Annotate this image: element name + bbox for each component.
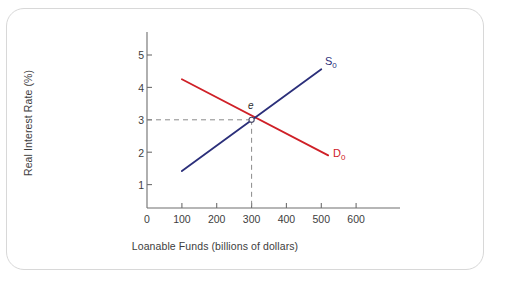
y-tick-label-4: 4 [124,82,144,94]
supply-curve-label-subscript: 0 [332,61,336,70]
demand-curve-label: D0 [333,147,345,162]
x-tick-label-600: 600 [341,213,371,225]
equilibrium-label: e [248,100,254,111]
y-tick-label-3: 3 [124,114,144,126]
x-axis-title: Loanable Funds (billions of dollars) [0,240,430,252]
x-tick-label-400: 400 [271,213,301,225]
x-tick-label-500: 500 [306,213,336,225]
x-axis-ticks [182,203,356,208]
demand-curve-label-text: D [333,147,341,159]
chart-area: Loanable Funds (billions of dollars) Rea… [0,0,507,286]
x-tick-label-200: 200 [202,213,232,225]
supply-curve-label: S0 [325,55,337,70]
x-tick-label-300: 300 [237,213,267,225]
y-tick-label-5: 5 [124,49,144,61]
y-tick-label-2: 2 [124,147,144,159]
demand-curve-label-subscript: 0 [341,153,345,162]
x-tick-label-100: 100 [167,213,197,225]
y-tick-label-1: 1 [124,179,144,191]
y-axis-title: Real Interest Rate (%) [22,43,34,203]
x-tick-label-0: 0 [132,213,162,225]
equilibrium-point-marker [249,117,254,122]
